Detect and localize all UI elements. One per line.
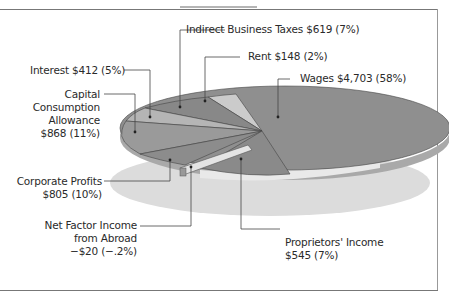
label-rent: Rent $148 (2%) xyxy=(248,50,328,63)
label-capital-consumption-allowance: Capital Consumption Allowance $868 (11%) xyxy=(20,88,100,140)
label-net-factor-income: Net Factor Income from Abroad −$20 (−.2%… xyxy=(20,219,137,258)
label-line: Capital xyxy=(20,88,100,101)
label-corporate-profits: Corporate Profits $805 (10%) xyxy=(0,175,102,201)
label-line: Net Factor Income xyxy=(20,219,137,232)
label-line: −$20 (−.2%) xyxy=(20,245,137,258)
label-line: $805 (10%) xyxy=(0,188,102,201)
label-line: $545 (7%) xyxy=(285,249,383,262)
label-line: Consumption xyxy=(20,101,100,114)
label-interest: Interest $412 (5%) xyxy=(30,64,122,77)
label-wages: Wages $4,703 (58%) xyxy=(300,72,406,85)
label-line: from Abroad xyxy=(20,232,137,245)
label-line: $868 (11%) xyxy=(20,127,100,140)
label-indirect-business-taxes: Indirect Business Taxes $619 (7%) xyxy=(186,23,359,36)
label-line: Corporate Profits xyxy=(0,175,102,188)
label-proprietors-income: Proprietors' Income $545 (7%) xyxy=(285,236,383,262)
label-line: Allowance xyxy=(20,114,100,127)
label-line: Proprietors' Income xyxy=(285,236,383,249)
